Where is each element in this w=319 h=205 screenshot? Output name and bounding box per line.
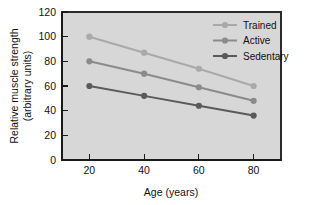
y-tick-label: 0 (50, 154, 56, 166)
data-point (141, 50, 147, 56)
y-axis-title-line1: Relative muscle strength (8, 28, 20, 143)
x-axis-tick-labels: 20406080 (84, 164, 260, 176)
data-point (141, 71, 147, 77)
x-axis-title: Age (years) (144, 186, 198, 198)
y-tick-label: 80 (44, 55, 56, 67)
y-axis-title-line2: (arbitrary units) (21, 51, 33, 122)
data-point (251, 83, 257, 89)
y-tick-label: 20 (44, 129, 56, 141)
y-axis-tick-labels: 020406080100120 (38, 6, 56, 166)
y-tick-label: 120 (38, 6, 56, 18)
y-tick-label: 100 (38, 30, 56, 42)
data-point (86, 34, 92, 40)
data-point (86, 58, 92, 64)
legend-label: Active (243, 35, 271, 46)
data-point (196, 103, 202, 109)
x-tick-label: 20 (84, 164, 96, 176)
legend-label: Sedentary (243, 51, 289, 62)
data-point (196, 84, 202, 90)
chart-container: 020406080100120 20406080 TrainedActiveSe… (0, 0, 319, 205)
legend-swatch-marker (222, 53, 228, 59)
y-tick-label: 40 (44, 104, 56, 116)
x-tick-label: 80 (248, 164, 260, 176)
x-tick-label: 40 (138, 164, 150, 176)
data-point (251, 113, 257, 119)
legend-label: Trained (243, 20, 277, 31)
line-chart: 020406080100120 20406080 TrainedActiveSe… (0, 0, 319, 205)
x-tick-label: 60 (193, 164, 205, 176)
data-point (251, 98, 257, 104)
data-point (141, 93, 147, 99)
y-tick-label: 60 (44, 80, 56, 92)
legend-swatch-marker (222, 37, 228, 43)
data-point (196, 66, 202, 72)
legend-swatch-marker (222, 22, 228, 28)
data-point (86, 83, 92, 89)
